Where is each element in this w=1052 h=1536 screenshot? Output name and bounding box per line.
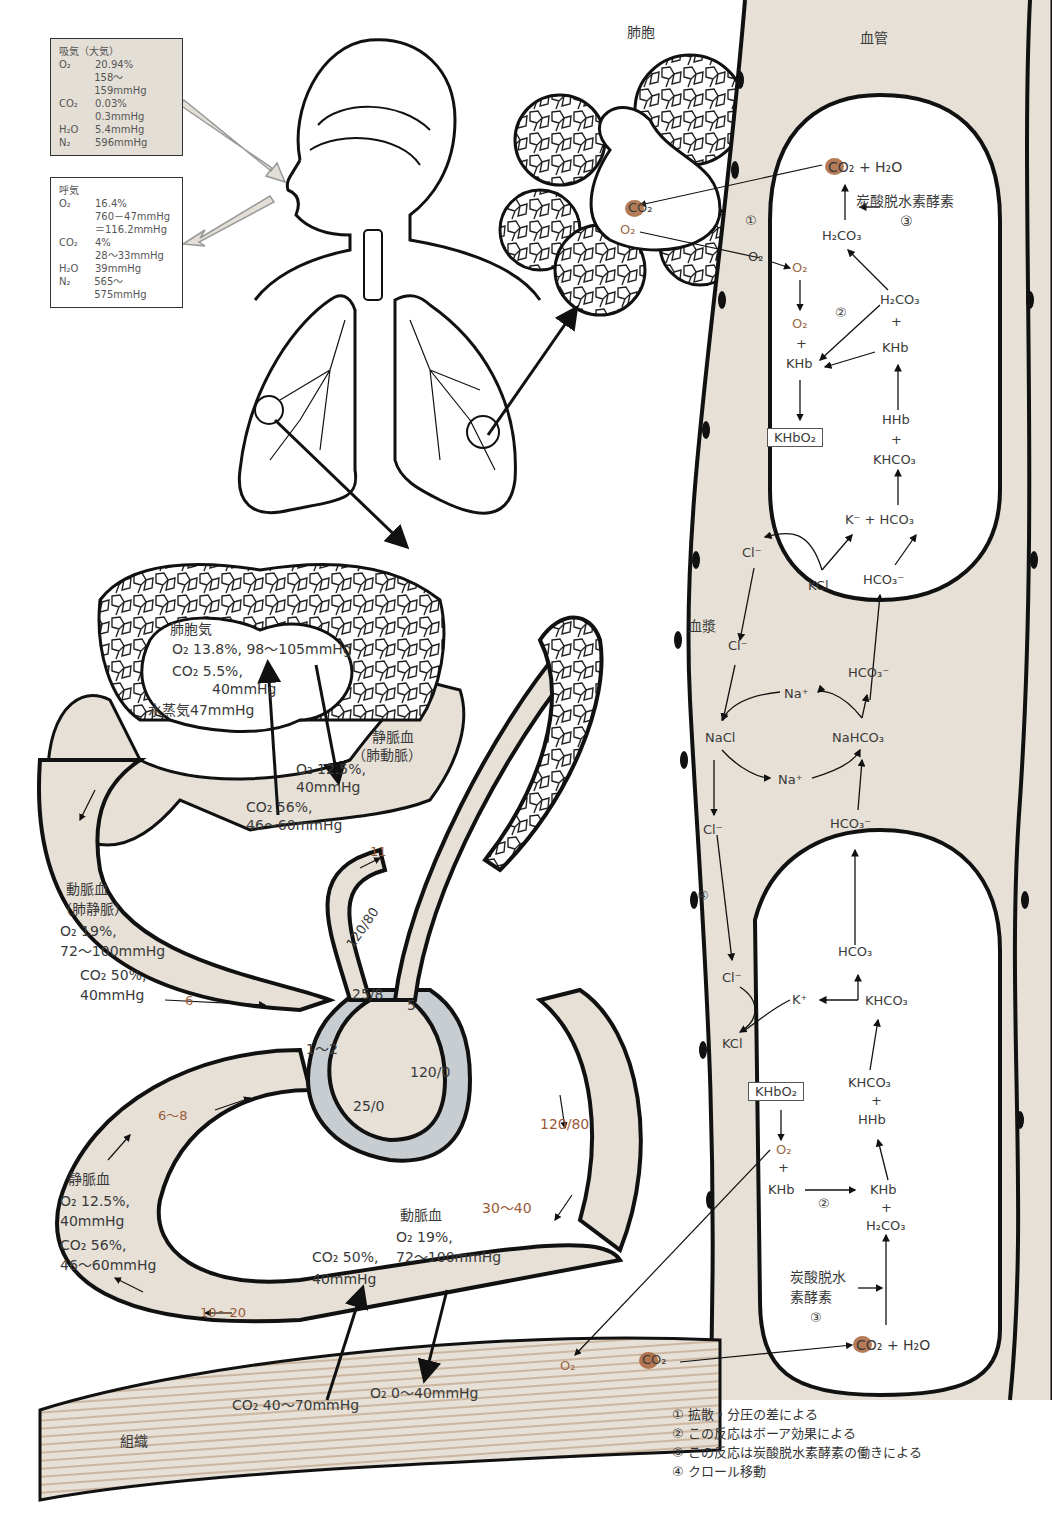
exhaled-row: O₂16.4% — [59, 197, 174, 210]
systemic-vein-title: 静脈血 — [68, 1170, 110, 1188]
pressure-10-20: 10～20 — [200, 1305, 246, 1321]
alveolus-co2: CO₂ — [628, 200, 653, 216]
pressure-11: 11 — [370, 844, 387, 860]
pressure-1-2: 1～2 — [306, 1040, 338, 1058]
tissue-o2: O₂ 0～40mmHg — [370, 1384, 479, 1402]
systemic-artery-o2: O₂ 19%, — [396, 1228, 453, 1246]
membrane-o2: O₂ — [748, 249, 763, 265]
upper-h2co3: H₂CO₃ — [822, 228, 862, 244]
upper-khb: KHb — [786, 356, 813, 372]
upper-khco3: KHCO₃ — [873, 452, 916, 468]
lower-o2: O₂ — [776, 1142, 791, 1158]
upper-h2co3-b: H₂CO₃ — [880, 292, 920, 308]
upper-hhb: HHb — [882, 412, 910, 428]
lower-khb-b: KHb — [870, 1182, 897, 1198]
upper-reaction-number: ② — [835, 305, 847, 321]
pulmonary-vein-co2: CO₂ 50%, — [80, 966, 146, 984]
lower-h2co3: H₂CO₃ — [866, 1218, 906, 1234]
pressure-5: 5 — [407, 996, 416, 1014]
systemic-vein-co2-mmhg: 46～60mmHg — [60, 1256, 156, 1274]
plasma-hco3-top: HCO₃⁻ — [848, 665, 889, 681]
alveolus-o2: O₂ — [620, 222, 635, 238]
pressure-120-0: 120/0 — [410, 1063, 450, 1081]
lower-plus-1: + — [871, 1093, 882, 1109]
chloride-shift-number: ④ — [697, 888, 709, 904]
lower-enzyme-line1: 炭酸脱水 — [790, 1268, 846, 1286]
systemic-artery-co2-mmhg: 40mmHg — [312, 1270, 377, 1288]
exhaled-row: 28～33mmHg — [59, 249, 174, 262]
exhaled-row: ＝116.2mmHg — [59, 223, 174, 236]
alveolar-water-vapor: 水蒸気47mmHg — [148, 701, 255, 719]
legend-item-2: ② この反応はボーア効果による — [672, 1424, 922, 1443]
upper-plus-b: + — [891, 314, 902, 330]
pulmonary-vein-o2-mmhg: 72～100mmHg — [60, 942, 165, 960]
plasma-cl-a: Cl⁻ — [728, 638, 748, 654]
inhaled-row: 0.3mmHg — [59, 110, 174, 123]
lower-enzyme-line2: 素酵素 — [790, 1288, 832, 1306]
plasma-hco3-bottom: HCO₃⁻ — [830, 816, 871, 832]
pulmonary-artery-o2: O₂ 12.5%, — [296, 760, 366, 778]
systemic-vein-o2: O₂ 12.5%, — [60, 1192, 130, 1210]
breath-arrows — [180, 100, 285, 246]
systemic-vein-o2-mmhg: 40mmHg — [60, 1212, 125, 1230]
legend-item-1: ① 拡散・分圧の差による — [672, 1405, 922, 1424]
alveolus-label: 肺胞 — [627, 24, 655, 40]
pulmonary-vein-title: 動脈血 — [66, 880, 108, 898]
pulmonary-artery-co2-mmhg: 46～60mmHg — [246, 816, 342, 834]
inhaled-row: N₂596mmHg — [59, 136, 174, 149]
pressure-30-40: 30～40 — [482, 1199, 532, 1217]
alveolar-air-co2-mmhg: 40mmHg — [212, 680, 277, 698]
pulmonary-artery-o2-mmhg: 40mmHg — [296, 778, 361, 796]
lower-khb: KHb — [768, 1182, 795, 1198]
gas-exchange-diagram: { "inhale_box": { "title": "吸気（大気）", "ro… — [0, 0, 1052, 1536]
diffusion-number: ① — [745, 213, 757, 229]
lower-reaction-number: ② — [818, 1196, 830, 1212]
pulmonary-vein-co2-mmhg: 40mmHg — [80, 986, 145, 1004]
alveoli-cluster — [500, 55, 745, 315]
upper-enzyme-label: 炭酸脱水素酵素 — [856, 192, 954, 210]
exhaled-row: N₂565～575mmHg — [59, 275, 174, 301]
lower-kcl: KCl — [722, 1036, 743, 1052]
tissue-muscle — [40, 1338, 720, 1500]
upper-cl-minus: Cl⁻ — [742, 545, 762, 561]
plasma-label: 血漿 — [688, 618, 716, 634]
systemic-artery-title: 動脈血 — [400, 1206, 442, 1224]
lungs — [239, 296, 515, 513]
lower-cl-minus: Cl⁻ — [722, 970, 742, 986]
plasma-na-bottom: Na⁺ — [778, 772, 803, 788]
pressure-6-8: 6～8 — [158, 1108, 188, 1124]
exhaled-row: H₂O39mmHg — [59, 262, 174, 275]
pulmonary-vein-sub: （肺静脈） — [58, 900, 128, 918]
legend-item-4: ④ クロール移動 — [672, 1462, 922, 1481]
inhaled-row: CO₂0.03% — [59, 97, 174, 110]
pressure-6: 6 — [185, 993, 193, 1009]
tissue-co2: CO₂ 40～70mmHg — [232, 1396, 359, 1414]
plasma-cl-b: Cl⁻ — [703, 822, 723, 838]
inhaled-row: O₂20.94% — [59, 58, 174, 71]
lower-hhb: HHb — [858, 1112, 886, 1128]
exhaled-air-box: 呼気 O₂16.4% 760－47mmHg ＝116.2mmHg CO₂4% 2… — [50, 177, 183, 308]
tissue-o2-molecule: O₂ — [560, 1358, 575, 1374]
pressure-120-80: 120/80 — [540, 1115, 589, 1133]
inhaled-air-title: 吸気（大気） — [59, 45, 174, 58]
upper-k-hco3: K⁻ + HCO₃ — [845, 512, 914, 528]
systemic-artery-o2-mmhg: 72～100mmHg — [396, 1248, 501, 1266]
upper-enzyme-number: ③ — [900, 212, 913, 230]
exhaled-row: CO₂4% — [59, 236, 174, 249]
lung-to-alveoli-arrow — [488, 310, 575, 435]
lower-plus-2: + — [778, 1160, 789, 1176]
upper-khbo2-box: KHbO₂ — [767, 428, 823, 447]
lower-enzyme-number: ③ — [810, 1310, 822, 1326]
lower-khco3-b: KHCO₃ — [848, 1075, 891, 1091]
human-head-outline — [255, 40, 540, 300]
tissue-label: 組織 — [120, 1432, 148, 1450]
pressure-25-0: 25/0 — [353, 1097, 384, 1115]
blood-vessel — [674, 0, 1052, 1400]
alveolar-air-o2: O₂ 13.8%, 98～105mmHg — [172, 640, 352, 658]
upper-khb-b: KHb — [882, 340, 909, 356]
inhaled-air-box: 吸気（大気） O₂20.94% 158～159mmHg CO₂0.03% 0.3… — [50, 38, 183, 156]
systemic-vein-co2: CO₂ 56%, — [60, 1236, 126, 1254]
legend-item-3: ③ この反応は炭酸脱水素酵素の働きによる — [672, 1443, 922, 1462]
lower-khbo2-box: KHbO₂ — [748, 1082, 804, 1101]
upper-plus-c: + — [891, 432, 902, 448]
